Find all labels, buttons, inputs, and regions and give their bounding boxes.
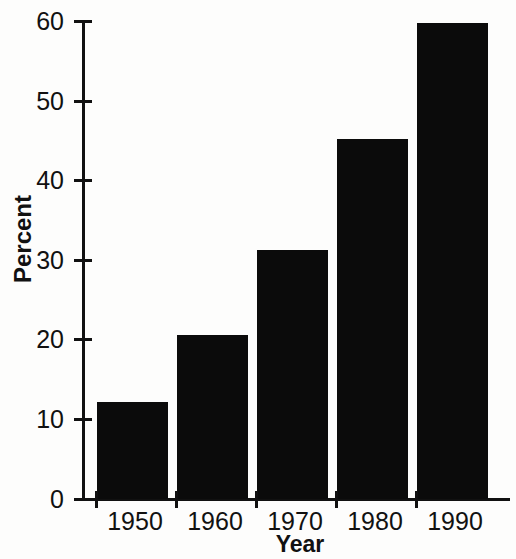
x-tick-mark-2: [255, 491, 258, 508]
x-tick-label-1950: 1950: [90, 509, 180, 534]
x-tick-mark-4: [415, 491, 418, 508]
x-axis-title: Year: [0, 533, 516, 556]
bar-1990: [417, 23, 488, 499]
x-tick-mark-3: [335, 491, 338, 508]
y-tick-label-60: 60: [4, 9, 64, 34]
bar-1980: [337, 139, 408, 499]
bar-1970: [257, 250, 328, 499]
y-tick-label-20: 20: [4, 327, 64, 352]
y-tick-label-10: 10: [4, 407, 64, 432]
x-tick-label-1990: 1990: [410, 509, 500, 534]
y-tick-label-0: 0: [4, 487, 64, 512]
y-tick-label-50: 50: [4, 89, 64, 114]
x-tick-mark-1: [175, 491, 178, 508]
y-tick-label-40: 40: [4, 168, 64, 193]
bar-1960: [177, 335, 248, 499]
bar-1950: [97, 402, 168, 499]
y-tick-label-30: 30: [4, 248, 64, 273]
x-tick-label-1980: 1980: [330, 509, 420, 534]
x-tick-label-1960: 1960: [170, 509, 260, 534]
x-tick-mark-0: [95, 491, 98, 508]
y-axis-title: Percent: [11, 179, 35, 299]
plot-area: [84, 21, 508, 499]
bar-chart: Percent 60 50 40 30 20 10 0 1950 1960 19…: [0, 0, 516, 559]
